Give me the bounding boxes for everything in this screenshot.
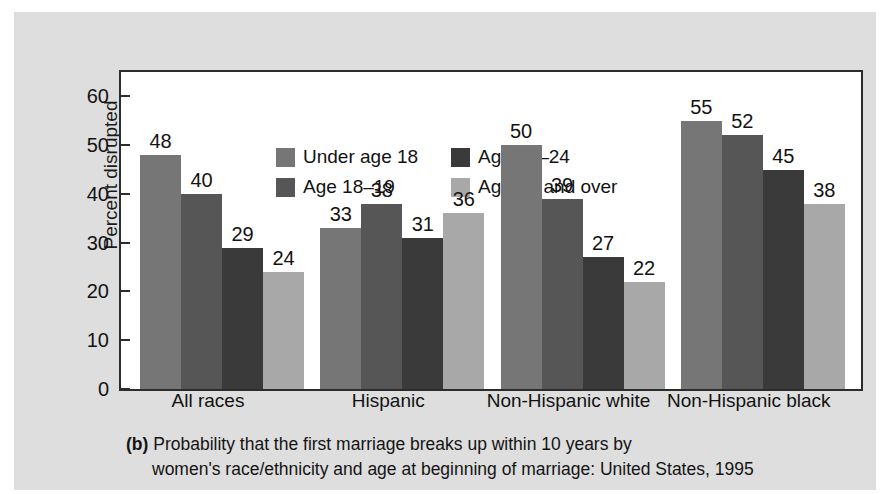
y-tick-label: 50: [63, 135, 109, 155]
bar-value-label: 24: [257, 248, 310, 268]
figure-caption: (b) Probability that the first marriage …: [126, 432, 846, 483]
caption-line-1: Probability that the first marriage brea…: [153, 434, 632, 454]
bar-value-label: 38: [355, 180, 408, 200]
bar-value-label: 52: [716, 111, 769, 131]
y-tick-mark: [121, 95, 130, 97]
bar: [624, 282, 665, 389]
y-tick-label: 30: [63, 233, 109, 253]
legend-swatch: [276, 178, 295, 197]
bar-value-label: 39: [536, 175, 589, 195]
bar-value-label: 45: [757, 146, 810, 166]
bar: [263, 272, 304, 389]
y-tick-label: 40: [63, 184, 109, 204]
bar-value-label: 36: [437, 189, 490, 209]
bar: [763, 170, 804, 389]
plot-frame: Under age 18Age 20–24Age 18–19Age 25 and…: [119, 70, 863, 391]
bar: [222, 248, 263, 389]
bar-value-label: 29: [216, 224, 269, 244]
bar-value-label: 40: [175, 170, 228, 190]
y-tick-label: 20: [63, 281, 109, 301]
bar-value-label: 50: [495, 121, 548, 141]
y-tick-mark: [121, 242, 130, 244]
caption-line-2: women's race/ethnicity and age at beginn…: [126, 457, 846, 482]
legend-swatch: [276, 148, 295, 167]
y-tick-label: 60: [63, 86, 109, 106]
bar-value-label: 27: [577, 233, 630, 253]
caption-tag: (b): [126, 434, 148, 454]
plot-area: Under age 18Age 20–24Age 18–19Age 25 and…: [121, 72, 861, 389]
figure-panel: Percent disrupted Under age 18Age 20–24A…: [14, 12, 876, 490]
legend-label: Under age 18: [303, 145, 418, 169]
bar-value-label: 38: [798, 180, 851, 200]
legend-swatch: [451, 148, 470, 167]
bar: [320, 228, 361, 389]
x-axis-category-label: Non-Hispanic black: [629, 390, 869, 412]
bar-value-label: 31: [396, 214, 449, 234]
y-tick-mark: [121, 144, 130, 146]
bar-value-label: 48: [134, 131, 187, 151]
bar: [140, 155, 181, 389]
bar: [443, 213, 484, 389]
figure-container: Percent disrupted Under age 18Age 20–24A…: [0, 0, 890, 494]
y-tick-mark: [121, 339, 130, 341]
y-tick-mark: [121, 290, 130, 292]
bar-value-label: 22: [618, 258, 671, 278]
bar-value-label: 33: [314, 204, 367, 224]
bar: [542, 199, 583, 389]
bar: [681, 121, 722, 389]
bar: [804, 204, 845, 389]
bar: [722, 135, 763, 389]
y-tick-mark: [121, 193, 130, 195]
bar: [402, 238, 443, 389]
y-tick-label: 10: [63, 330, 109, 350]
